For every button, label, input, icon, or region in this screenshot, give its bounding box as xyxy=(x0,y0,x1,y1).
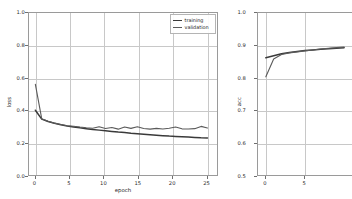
loss-y-axis-label: loss xyxy=(6,97,12,107)
loss-ytick-1: 0.2 xyxy=(8,140,25,146)
loss-xtickmark-5 xyxy=(207,176,208,179)
legend-label-validation: validation xyxy=(185,25,209,30)
acc-subplot: 0.5 0.6 0.7 0.8 0.9 1.0 0 5 xyxy=(230,0,322,199)
series-validation xyxy=(266,47,344,77)
acc-xtick-1: 5 xyxy=(303,180,306,186)
loss-xtick-0: 0 xyxy=(33,180,36,186)
loss-xtickmark-3 xyxy=(138,176,139,179)
loss-ytickmark-2 xyxy=(25,110,28,111)
acc-xtickmark-0 xyxy=(265,176,266,179)
loss-ytickmark-4 xyxy=(25,45,28,46)
acc-ytickmark-5 xyxy=(254,12,257,13)
loss-xtickmark-4 xyxy=(172,176,173,179)
acc-ytick-1: 0.6 xyxy=(230,140,246,146)
loss-xtick-2: 10 xyxy=(100,180,107,186)
loss-ytick-5: 1.0 xyxy=(8,9,25,15)
loss-ytick-3: 0.6 xyxy=(8,75,25,81)
loss-ytickmark-0 xyxy=(25,176,28,177)
loss-xtick-5: 25 xyxy=(203,180,210,186)
acc-curves xyxy=(258,13,352,175)
acc-ytickmark-1 xyxy=(254,143,257,144)
acc-ytick-3: 0.8 xyxy=(230,75,246,81)
acc-ytickmark-3 xyxy=(254,78,257,79)
loss-xtick-4: 20 xyxy=(169,180,176,186)
legend: training validation xyxy=(170,14,216,34)
acc-ytickmark-0 xyxy=(254,176,257,177)
line-swatch-icon xyxy=(173,27,182,28)
loss-ytickmark-1 xyxy=(25,143,28,144)
acc-xtick-0: 0 xyxy=(263,180,266,186)
loss-ytickmark-3 xyxy=(25,78,28,79)
acc-y-axis-label: acc xyxy=(236,97,242,106)
acc-ytick-0: 0.5 xyxy=(230,173,246,179)
acc-plot-area xyxy=(257,12,352,176)
loss-ytick-4: 0.8 xyxy=(8,42,25,48)
acc-xtickmark-1 xyxy=(304,176,305,179)
loss-ytickmark-5 xyxy=(25,12,28,13)
loss-xtickmark-2 xyxy=(103,176,104,179)
acc-ytickmark-4 xyxy=(254,45,257,46)
loss-curves xyxy=(29,13,217,175)
loss-ytick-2: 0.4 xyxy=(8,107,25,113)
loss-xtickmark-1 xyxy=(69,176,70,179)
loss-plot-area xyxy=(28,12,218,176)
loss-ytick-0: 0.0 xyxy=(8,173,25,179)
loss-x-axis-label: epoch xyxy=(115,187,131,193)
acc-ytickmark-2 xyxy=(254,110,257,111)
legend-label-training: training xyxy=(185,18,204,23)
legend-item-validation: validation xyxy=(173,24,212,31)
acc-ytick-5: 1.0 xyxy=(230,9,246,15)
loss-xtick-1: 5 xyxy=(67,180,70,186)
loss-xtick-3: 15 xyxy=(134,180,141,186)
acc-ytick-2: 0.7 xyxy=(230,107,246,113)
line-swatch-icon xyxy=(173,20,182,21)
loss-subplot: loss epoch 0.0 0.2 0.4 0.6 0.8 1.0 xyxy=(0,0,230,199)
acc-ytick-4: 0.9 xyxy=(230,42,246,48)
series-validation xyxy=(35,84,207,129)
legend-item-training: training xyxy=(173,17,212,24)
loss-xtickmark-0 xyxy=(35,176,36,179)
